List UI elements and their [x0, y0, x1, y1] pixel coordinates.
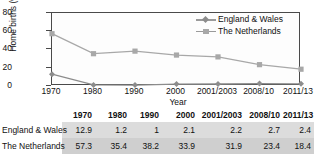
legend-label-netherlands: The Netherlands	[218, 26, 281, 38]
cell-nl-2001-2003: 31.9	[198, 138, 245, 154]
table-col-1990: 1990	[130, 108, 162, 122]
y-tick-80: 80	[0, 8, 12, 16]
cell-nl-2000: 33.9	[162, 138, 198, 154]
cell-nl-1970: 57.3	[62, 138, 95, 154]
x-tick-2000: 2000	[166, 87, 185, 96]
data-point-1-1	[91, 51, 96, 56]
data-point-1-0	[49, 31, 54, 36]
diamond-marker-icon	[196, 14, 216, 25]
table-row: The Netherlands 57.3 35.4 38.2 33.9 31.9…	[0, 138, 314, 154]
x-tick-1970: 1970	[42, 87, 61, 96]
cell-nl-1990: 38.2	[130, 138, 162, 154]
cell-ew-2000: 2.1	[162, 122, 198, 138]
chart-legend: England & Wales The Netherlands	[196, 14, 283, 37]
cell-nl-2008-10: 23.4	[245, 138, 283, 154]
y-tick-60: 60	[0, 26, 12, 34]
cell-ew-1970: 12.9	[62, 122, 95, 138]
cell-nl-1980: 35.4	[95, 138, 130, 154]
x-tick-2008-10: 2008/10	[243, 87, 274, 96]
x-axis-title: Year	[0, 97, 314, 107]
y-tick-40: 40	[0, 44, 12, 52]
table-row: England & Wales 12.9 1.2 1 2.1 2.2 2.7 2…	[0, 122, 314, 138]
legend-item-england-wales: England & Wales	[196, 14, 283, 26]
cell-nl-2011-13: 18.4	[283, 138, 314, 154]
data-table: 1970 1980 1990 2000 2001/2003 2008/10 20…	[0, 108, 314, 163]
table-col-1980: 1980	[95, 108, 130, 122]
cell-ew-2001-2003: 2.2	[198, 122, 245, 138]
table-col-2001-2003: 2001/2003	[198, 108, 245, 122]
data-point-1-4	[215, 54, 220, 59]
series-line-1	[52, 34, 301, 70]
data-point-1-2	[132, 49, 137, 54]
row-label-england-wales: England & Wales	[0, 122, 62, 138]
table-col-1970: 1970	[62, 108, 95, 122]
x-tick-1980: 1980	[83, 87, 102, 96]
x-tick-2011-13: 2011/13	[283, 87, 313, 96]
table-col-2000: 2000	[162, 108, 198, 122]
table-col-2011-13: 2011/13	[283, 108, 314, 122]
cell-ew-1990: 1	[130, 122, 162, 138]
cell-ew-1980: 1.2	[95, 122, 130, 138]
data-point-1-3	[174, 52, 179, 57]
cell-ew-2011-13: 2.4	[283, 122, 314, 138]
x-tick-1990: 1990	[125, 87, 144, 96]
table-header-row: 1970 1980 1990 2000 2001/2003 2008/10 20…	[0, 108, 314, 122]
home-births-figure: Home births (%) 80 60 40 20 0 England & …	[0, 0, 314, 163]
x-tick-2001-2003: 2001/2003	[197, 87, 237, 96]
y-tick-20: 20	[0, 63, 12, 71]
cell-ew-2008-10: 2.7	[245, 122, 283, 138]
square-marker-icon	[196, 26, 216, 37]
data-point-0-0	[49, 71, 55, 77]
table-corner-cell	[0, 108, 62, 122]
legend-item-netherlands: The Netherlands	[196, 26, 283, 38]
y-tick-0: 0	[0, 81, 12, 89]
legend-label-england-wales: England & Wales	[218, 14, 283, 26]
line-chart: Home births (%) 80 60 40 20 0 England & …	[0, 0, 314, 107]
data-point-1-5	[257, 62, 262, 67]
row-label-netherlands: The Netherlands	[0, 138, 62, 154]
table-col-2008-10: 2008/10	[245, 108, 283, 122]
data-point-1-6	[298, 67, 303, 72]
